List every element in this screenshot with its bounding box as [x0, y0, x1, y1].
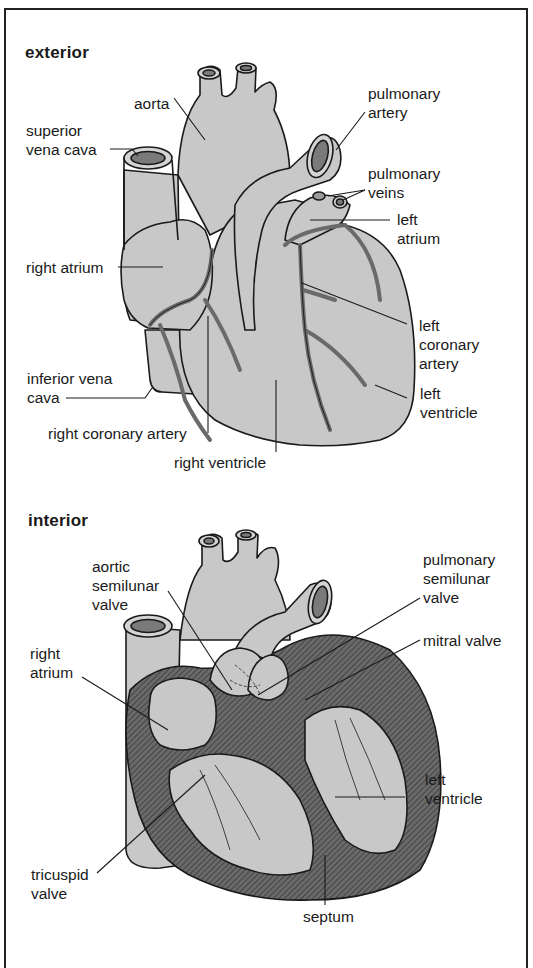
- label-right-atrium-interior: right atrium: [30, 644, 73, 682]
- label-aorta: aorta: [134, 94, 169, 113]
- label-left-ventricle-exterior: left ventricle: [420, 384, 478, 422]
- label-tricuspid-valve: tricuspid valve: [31, 865, 89, 903]
- label-septum: septum: [303, 907, 354, 926]
- exterior-section-title: exterior: [25, 43, 89, 63]
- label-right-atrium: right atrium: [26, 258, 104, 277]
- label-pulmonary-veins: pulmonary veins: [368, 164, 440, 202]
- label-left-ventricle-interior: left ventricle: [425, 770, 483, 808]
- label-left-atrium: left atrium: [397, 210, 440, 248]
- interior-heart-illustration: [124, 530, 441, 900]
- label-right-ventricle: right ventricle: [174, 453, 266, 472]
- label-right-coronary-artery: right coronary artery: [48, 424, 187, 443]
- label-inferior-vena-cava: inferior vena cava: [27, 369, 112, 407]
- interior-section-title: interior: [28, 511, 88, 531]
- label-pulmonary-artery: pulmonary artery: [368, 84, 440, 122]
- label-mitral-valve: mitral valve: [423, 631, 501, 650]
- label-aortic-semilunar-valve: aortic semilunar valve: [92, 557, 159, 614]
- label-superior-vena-cava: superior vena cava: [26, 121, 97, 159]
- label-pulmonary-semilunar-valve: pulmonary semilunar valve: [423, 550, 495, 607]
- label-left-coronary-artery: left coronary artery: [419, 316, 479, 373]
